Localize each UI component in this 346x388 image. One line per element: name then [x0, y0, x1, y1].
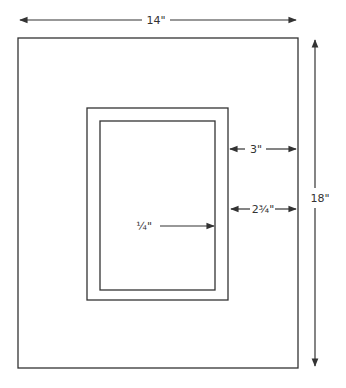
width-dimension: 14": [20, 14, 296, 27]
inner-border-label: ¼": [136, 220, 152, 233]
opening-rect: [100, 121, 215, 290]
mat-border-dimension: 3": [230, 143, 296, 156]
height-label: 18": [310, 192, 329, 205]
opening-offset-label: 2¾": [252, 203, 275, 216]
inner-border-dimension: ¼": [136, 220, 214, 233]
mat-rect: [87, 108, 228, 300]
width-label: 14": [146, 14, 165, 27]
height-dimension: 18": [310, 40, 329, 366]
mat-border-label: 3": [250, 143, 262, 156]
opening-offset-dimension: 2¾": [231, 203, 296, 216]
frame-diagram: 14" 18" 3" 2¾" ¼": [0, 0, 346, 388]
